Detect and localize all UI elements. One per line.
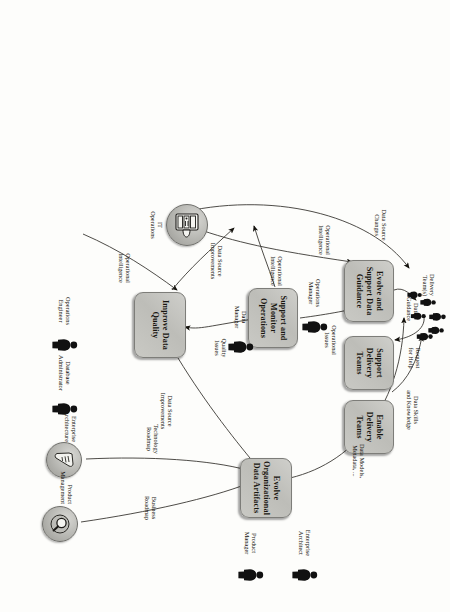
- diagram-canvas: Improve Data Quality Support and Monitor…: [0, 0, 450, 612]
- actor-data-manager[interactable]: Data Manager: [228, 300, 254, 358]
- actor-database-administrator[interactable]: Database Administrator: [52, 350, 78, 420]
- edge-label-data-source-changes: Data Source Changes: [374, 200, 388, 250]
- edge-label-data-source-improvements-to-artifacts: Data Source Improvements: [160, 384, 174, 438]
- edge-business-roadmap: [81, 484, 247, 522]
- edge-label-operational-intelligence-to-guidance: Operational Intelligence: [318, 214, 332, 266]
- edge-label-data-skills-and-knowledge: Data Skills and Knowledge: [406, 382, 420, 438]
- actor-label: Product Manager: [244, 524, 258, 562]
- system-it-operations[interactable]: [166, 204, 208, 246]
- system-product-management[interactable]: [42, 506, 78, 542]
- person-icon: [238, 564, 264, 586]
- edge-label-operational-intelligence-to-it: Operational Intelligence: [270, 246, 284, 296]
- edge-technology-roadmap: [86, 458, 247, 470]
- magnifier-disc-icon: [49, 513, 71, 535]
- node-support-delivery-teams[interactable]: Support Delivery Teams: [344, 336, 394, 390]
- edge-label-quality-issues: Quality Issues: [214, 330, 228, 366]
- edge-data-source-improvements-to-artifacts: [178, 358, 260, 470]
- person-icon: [228, 336, 254, 358]
- actor-product-manager[interactable]: Product Manager: [238, 524, 264, 586]
- edge-label-data-guidance: Data Guidance: [406, 292, 420, 326]
- node-evolve-organizational-data-artifacts[interactable]: Evolve Organizational Data Artifacts: [240, 458, 292, 518]
- person-icon: [292, 564, 318, 586]
- system-label-product-management: Product Management: [60, 458, 74, 504]
- node-label: Support Delivery Teams: [355, 339, 384, 387]
- edge-label-operational-intelligence-to-quality: Operational Intelligence: [118, 242, 132, 294]
- edge-label-data-models-metadata: Data Models, Metadata, ...: [352, 434, 366, 488]
- node-label: Evolve and Support Data Guidance: [355, 263, 384, 319]
- actor-label: Operations Manager: [308, 272, 322, 314]
- actor-label: Data Manager: [234, 300, 248, 334]
- actor-label: Operations Engineer: [58, 290, 72, 332]
- actor-enterprise-architect[interactable]: Enterprise Architect: [292, 524, 318, 586]
- edge-label-business-roadmap: Business Roadmap: [144, 486, 158, 530]
- node-evolve-support-data-guidance[interactable]: Evolve and Support Data Guidance: [344, 260, 394, 322]
- system-label-it-operations: IT Operations: [150, 196, 164, 254]
- node-support-monitor-operations[interactable]: Support and Monitor Operations: [248, 288, 298, 348]
- edge-label-technology-roadmap: Technology Roadmap: [146, 414, 160, 464]
- actor-label: Database Administrator: [58, 350, 72, 396]
- actor-label: Enterprise Architect: [298, 524, 312, 562]
- node-label: Support and Monitor Operations: [259, 291, 288, 345]
- actor-label-delivery-teams: Delivery Team(s): [422, 262, 436, 296]
- node-label: Improve Data Quality: [150, 295, 169, 355]
- node-improve-data-quality[interactable]: Improve Data Quality: [134, 292, 186, 358]
- edge-label-request-for-help: Request for Help: [408, 340, 422, 376]
- server-rack-icon: [174, 211, 200, 239]
- actor-operations-engineer[interactable]: Operations Engineer: [52, 290, 78, 356]
- node-label: Evolve Organizational Data Artifacts: [252, 461, 281, 515]
- diagram-page: Improve Data Quality Support and Monitor…: [0, 0, 450, 612]
- person-icon: [52, 398, 78, 420]
- edge-label-operational-issues: Operational Issues: [324, 318, 338, 362]
- edge-label-data-source-improvements: Data Source Improvements: [210, 234, 224, 288]
